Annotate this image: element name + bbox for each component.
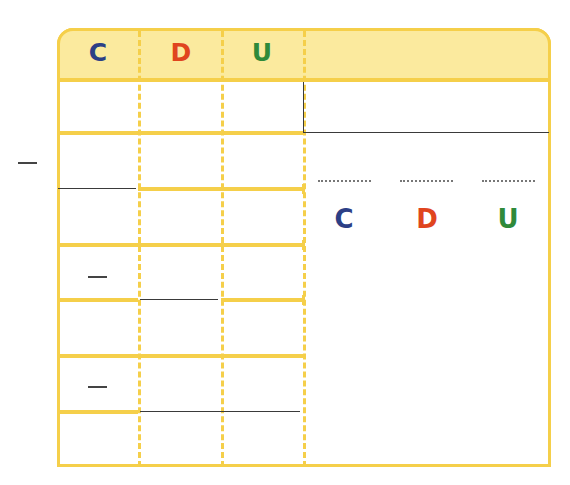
quotient-blank-hundreds[interactable]	[318, 180, 371, 182]
row-divider	[58, 354, 304, 358]
quotient-label-units: U	[488, 202, 528, 236]
minus-sign	[88, 386, 107, 388]
row-divider	[58, 410, 138, 414]
minus-sign	[18, 162, 37, 164]
quotient-blank-tens[interactable]	[400, 180, 453, 182]
column-divider	[221, 31, 224, 467]
row-divider	[138, 187, 304, 191]
subtraction-line	[140, 411, 300, 412]
quotient-blank-units[interactable]	[482, 180, 535, 182]
subtraction-line	[58, 188, 136, 189]
quotient-label-hundreds: C	[324, 202, 364, 236]
row-divider	[58, 298, 138, 302]
minus-sign	[88, 276, 107, 278]
column-divider	[138, 31, 141, 467]
row-divider	[58, 131, 304, 135]
row-divider	[58, 243, 304, 247]
divisor-bracket-horizontal	[303, 132, 549, 133]
header-hundreds: C	[78, 36, 118, 70]
header-tens: D	[161, 36, 201, 70]
row-divider	[221, 298, 304, 302]
grid-tick	[302, 184, 305, 194]
header-units: U	[242, 36, 282, 70]
grid-tick	[302, 295, 305, 305]
divisor-bracket-vertical	[303, 82, 304, 133]
grid-tick	[302, 240, 305, 250]
subtraction-line	[140, 299, 218, 300]
quotient-label-tens: D	[407, 202, 447, 236]
